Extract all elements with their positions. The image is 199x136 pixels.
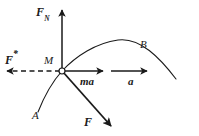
diagram-canvas [0,0,199,136]
ma-label: ma [80,76,94,87]
resultant-force-label: F [84,116,92,128]
point-b-label: B [140,39,147,50]
normal-force-symbol: F [36,5,44,19]
normal-force-label: FN [36,6,49,21]
inertial-force-superscript: * [13,48,18,59]
inertial-force-label: F* [5,51,18,66]
point-m-label: M [44,55,53,66]
trajectory-curve [38,40,176,112]
normal-force-subscript: N [44,14,49,23]
acceleration-label: a [128,76,134,87]
physics-force-diagram: FN F* M ma a B A F [0,0,199,136]
point-a-label: A [32,110,39,121]
mass-point-marker [59,68,65,74]
inertial-force-symbol: F [5,53,13,67]
